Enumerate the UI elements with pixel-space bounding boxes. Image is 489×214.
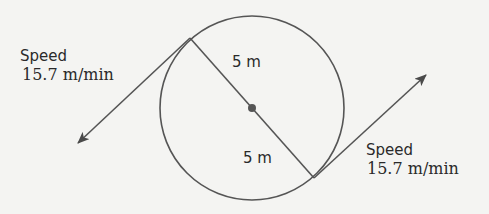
left-velocity-arrow	[78, 38, 190, 143]
left-speed-value: 15.7 m/min	[22, 67, 114, 83]
diagram-canvas	[0, 0, 489, 214]
right-speed-value: 15.7 m/min	[367, 161, 459, 177]
center-point	[248, 104, 256, 112]
radius-label-top: 5 m	[232, 55, 261, 70]
left-speed-title: Speed	[20, 49, 67, 64]
radius-label-bottom: 5 m	[243, 151, 272, 166]
right-speed-title: Speed	[366, 143, 413, 158]
